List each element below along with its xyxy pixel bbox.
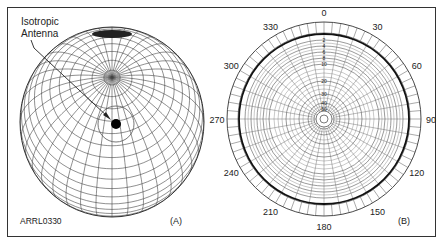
angle-label-210: 210 [263, 207, 278, 217]
db-label-10: 10 [321, 61, 327, 67]
isotropic-antenna-dot [111, 119, 121, 129]
angle-label-180: 180 [316, 222, 331, 232]
angle-label-300: 300 [224, 61, 239, 71]
angle-label-150: 150 [370, 207, 385, 217]
panel-a-sphere [20, 27, 204, 217]
panel-a-caption: (A) [170, 216, 182, 226]
angle-label-240: 240 [224, 168, 239, 178]
figure-canvas: Isotropic Antenna ARRL0330 (A) 030609012… [0, 0, 444, 247]
angle-label-60: 60 [412, 61, 422, 71]
angle-label-270: 270 [209, 115, 224, 125]
angle-label-0: 0 [321, 8, 326, 18]
angle-label-330: 330 [263, 22, 278, 32]
panel-b-caption: (B) [398, 216, 410, 226]
figure-id-label: ARRL0330 [20, 216, 62, 226]
annotation-line1: Isotropic [21, 16, 59, 27]
angle-label-30: 30 [372, 22, 382, 32]
db-label-50: 50 [321, 106, 327, 112]
db-label-30: 30 [321, 91, 327, 97]
angle-label-120: 120 [409, 168, 424, 178]
db-label-20: 20 [321, 78, 327, 84]
sphere-pole-icon [92, 30, 132, 38]
angle-label-90: 90 [426, 115, 436, 125]
annotation-line2: Antenna [21, 28, 59, 39]
